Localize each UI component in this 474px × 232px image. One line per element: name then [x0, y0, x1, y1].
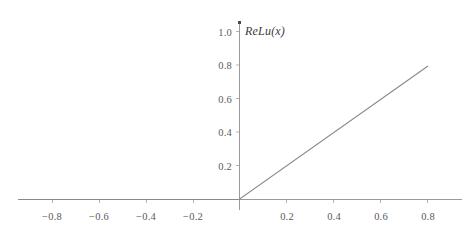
relu-plot-canvas	[0, 0, 474, 232]
relu-chart-figure: ReLu(x) 0.2 0.4 0.6 0.8 1.0 −0.8 −0.6 −0…	[0, 0, 474, 232]
x-tick-label-6: 0.6	[374, 211, 388, 222]
y-axis-cap-marker	[238, 21, 241, 24]
x-tick-label-5: 0.4	[327, 211, 341, 222]
y-axis-label: ReLu(x)	[245, 24, 285, 39]
y-tick-label-2: 0.6	[206, 93, 232, 104]
x-tick-label-2: −0.4	[136, 211, 156, 222]
x-tick-label-7: 0.8	[421, 211, 435, 222]
y-tick-label-4: 1.0	[206, 26, 232, 37]
x-tick-label-0: −0.8	[42, 211, 62, 222]
y-tick-label-1: 0.4	[206, 127, 232, 138]
y-axis-ticks	[236, 32, 239, 166]
y-tick-label-3: 0.8	[206, 60, 232, 71]
y-tick-label-0: 0.2	[206, 160, 232, 171]
x-tick-label-1: −0.6	[89, 211, 109, 222]
x-tick-label-4: 0.2	[280, 211, 294, 222]
x-tick-label-3: −0.2	[183, 211, 203, 222]
